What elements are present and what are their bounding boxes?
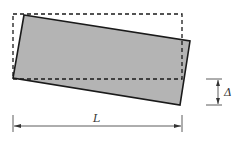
arrow-down-icon — [216, 98, 220, 104]
length-dimension: L — [13, 112, 182, 132]
rotated-block-diagram: Δ L — [0, 0, 241, 145]
arrow-left-icon — [14, 124, 21, 128]
delta-dimension: Δ — [206, 79, 232, 105]
arrow-up-icon — [216, 80, 220, 86]
delta-label: Δ — [223, 86, 232, 99]
length-label: L — [92, 112, 100, 125]
rotated-block — [13, 15, 190, 105]
arrow-right-icon — [174, 124, 181, 128]
